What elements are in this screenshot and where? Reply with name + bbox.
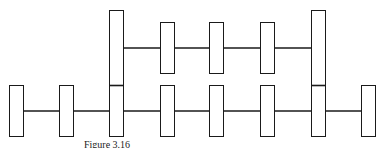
bottom-node [261, 86, 275, 137]
figure-caption: Figure 3.16 [84, 139, 130, 148]
tall-shared-node [312, 11, 326, 137]
tall-shared-node [110, 11, 124, 137]
top-node [261, 23, 275, 74]
top-node [210, 23, 224, 74]
bottom-node [60, 86, 74, 137]
bottom-node [161, 86, 175, 137]
chain-diagram [0, 0, 385, 148]
bottom-node [10, 86, 24, 137]
bottom-node [362, 86, 376, 137]
top-node [161, 23, 175, 74]
bottom-node [210, 86, 224, 137]
